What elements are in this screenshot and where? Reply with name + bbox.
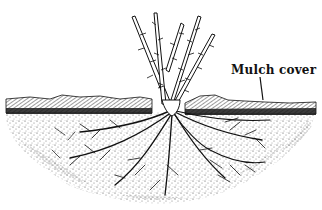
- plant-illustration: [0, 0, 322, 210]
- canes: [132, 13, 215, 108]
- mulch-leader-line: [260, 77, 263, 100]
- soil: [6, 112, 316, 204]
- mulch-cover-label: Mulch cover: [231, 63, 316, 77]
